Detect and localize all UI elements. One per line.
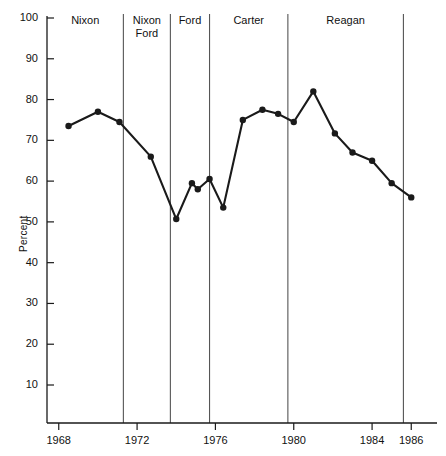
approval-trend-line <box>69 91 412 219</box>
era-divider-lines <box>123 14 403 423</box>
plot-area <box>0 0 446 456</box>
presidential-approval-line-chart: Percent 102030405060708090100 1968197219… <box>0 0 446 456</box>
data-point-markers <box>65 88 414 222</box>
axis-spines-and-ticks <box>47 16 437 430</box>
